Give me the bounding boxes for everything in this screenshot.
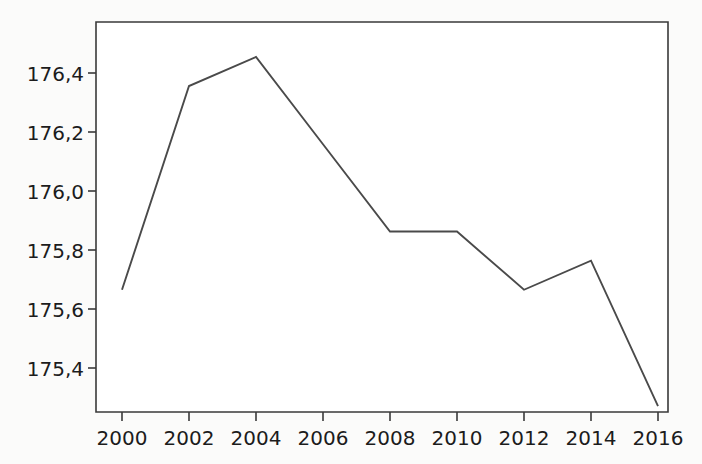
- x-axis-tick-labels: 2000 2002 2004 2006 2008 2010 2012 2014 …: [97, 426, 684, 450]
- x-tick-label-2008: 2008: [365, 426, 416, 450]
- y-tick-label-176-4: 176,4: [27, 62, 84, 86]
- y-tick-label-176-0: 176,0: [27, 180, 84, 204]
- chart-canvas: 176,4 176,2 176,0 175,8 175,6 175,4 2000…: [0, 0, 702, 464]
- line-chart-figure: 176,4 176,2 176,0 175,8 175,6 175,4 2000…: [0, 0, 702, 464]
- y-tick-label-175-4: 175,4: [27, 357, 84, 381]
- y-tick-label-175-8: 175,8: [27, 239, 84, 263]
- x-tick-label-2006: 2006: [298, 426, 349, 450]
- x-tick-label-2002: 2002: [164, 426, 215, 450]
- x-tick-label-2000: 2000: [97, 426, 148, 450]
- x-tick-label-2012: 2012: [499, 426, 550, 450]
- plot-area-background: [96, 22, 668, 412]
- y-tick-label-176-2: 176,2: [27, 121, 84, 145]
- x-tick-label-2010: 2010: [432, 426, 483, 450]
- x-tick-label-2016: 2016: [633, 426, 684, 450]
- x-tick-label-2014: 2014: [566, 426, 617, 450]
- x-tick-label-2004: 2004: [231, 426, 282, 450]
- y-tick-label-175-6: 175,6: [27, 298, 84, 322]
